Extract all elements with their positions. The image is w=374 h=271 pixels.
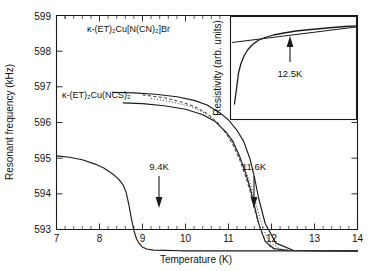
x-tick-label: 12 [266,233,278,244]
y-tick-label: 593 [34,224,51,235]
x-tick-label: 11 [223,233,234,244]
y-tick-label: 597 [34,81,51,92]
inset-annotation-label: 12.5K [278,68,303,79]
series-kappa-br-2 [123,103,357,251]
y-tick-labels: 593 594 595 596 597 598 599 [34,11,51,236]
annotation-label: 11.6K [242,161,267,172]
x-tick-label: 10 [180,233,192,244]
x-tick-labels: 7 8 9 10 11 12 13 14 [54,233,364,244]
inset-y-axis-title: Resistivity (arb. units) [212,20,223,116]
series-label-ncs: κ-(ET)₂Cu(NCS)₂ [62,90,131,100]
x-axis-title: Temperature (K) [160,254,232,265]
resonant-frequency-chart: 7 8 9 10 11 12 13 14 593 594 595 596 597… [0,0,374,271]
annotation-11.6K: 11.6K [242,161,267,208]
x-tick-label: 14 [352,233,364,244]
annotation-9.4K: 9.4K [149,161,169,208]
inset-resistivity-chart: 12.5K Resistivity (arb. units) [212,17,357,120]
x-tick-label: 8 [97,233,103,244]
annotation-label: 9.4K [149,161,169,172]
x-tick-label: 13 [309,233,321,244]
figure-container: 7 8 9 10 11 12 13 14 593 594 595 596 597… [0,0,374,271]
y-tick-label: 594 [34,188,51,199]
y-tick-label: 599 [34,11,51,22]
y-axis-title: Resonant frequency (kHz) [4,64,15,180]
y-tick-label: 598 [34,46,51,57]
x-tick-label: 9 [140,233,146,244]
y-tick-label: 595 [34,153,51,164]
x-tick-label: 7 [54,233,60,244]
series-label-br: κ-(ET)₂Cu[N(CN)₂]Br [87,24,170,34]
y-tick-label: 596 [34,117,51,128]
